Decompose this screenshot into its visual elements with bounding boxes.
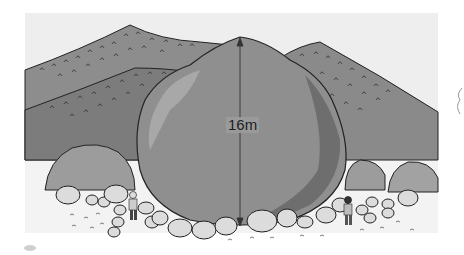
- edge-fragment: [458, 88, 463, 114]
- smudge: [24, 245, 36, 251]
- person-left: [129, 192, 137, 221]
- person-right: [344, 197, 352, 226]
- height-label: 16m: [226, 117, 259, 133]
